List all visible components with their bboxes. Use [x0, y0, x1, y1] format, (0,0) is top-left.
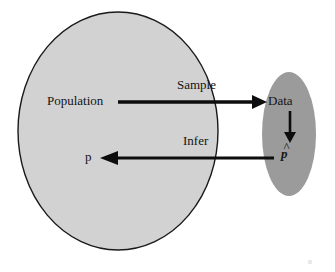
circumflex-accent-icon: ^: [281, 140, 292, 153]
data-label: Data: [268, 94, 293, 107]
sample-arrow-label: Sample: [177, 78, 216, 91]
population-label: Population: [47, 94, 103, 107]
scan-artifact-speck: [308, 260, 312, 264]
infer-arrow-label: Infer: [183, 134, 208, 147]
diagram-canvas: [0, 0, 335, 272]
statistics-inference-diagram: Population Sample Data Infer p ^p: [0, 0, 335, 272]
population-parameter-label: p: [85, 150, 92, 163]
population-ellipse: [18, 12, 218, 250]
sample-statistic-label: ^p: [281, 147, 288, 160]
phat-glyph: ^p: [281, 147, 288, 160]
